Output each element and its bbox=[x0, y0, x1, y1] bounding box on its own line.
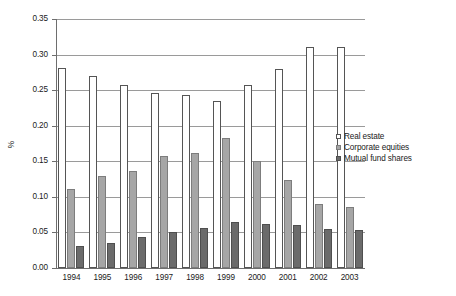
y-axis-tick-label: 0.10 bbox=[14, 192, 48, 201]
bar bbox=[129, 171, 137, 268]
bar bbox=[222, 138, 230, 268]
bar-group bbox=[120, 19, 146, 268]
bar bbox=[160, 156, 168, 268]
bar bbox=[89, 76, 97, 268]
legend-swatch-icon bbox=[336, 134, 341, 139]
bar-group bbox=[213, 19, 239, 268]
chart-legend: Real estateCorporate equitiesMutual fund… bbox=[336, 131, 412, 164]
bar bbox=[58, 68, 66, 268]
bar bbox=[182, 95, 190, 268]
y-axis-tick-label: 0.30 bbox=[14, 50, 48, 59]
y-axis-title: % bbox=[7, 141, 16, 148]
x-axis-tick-label: 2002 bbox=[303, 273, 334, 282]
bars-layer bbox=[56, 19, 365, 268]
bar bbox=[200, 228, 208, 268]
bar bbox=[191, 153, 199, 268]
x-axis-tick-label: 2003 bbox=[334, 273, 365, 282]
y-axis-tick-label: 0.20 bbox=[14, 121, 48, 130]
bar bbox=[231, 222, 239, 268]
legend-label: Mutual fund shares bbox=[344, 154, 412, 163]
bar-group bbox=[58, 19, 84, 268]
bar bbox=[315, 204, 323, 268]
bar-group bbox=[275, 19, 301, 268]
y-axis-tick-label: 0.25 bbox=[14, 85, 48, 94]
bar bbox=[67, 189, 75, 268]
legend-swatch-icon bbox=[336, 156, 341, 161]
bar bbox=[284, 180, 292, 268]
legend-item: Corporate equities bbox=[336, 142, 412, 153]
x-axis-tick-label: 2001 bbox=[272, 273, 303, 282]
bar bbox=[275, 69, 283, 268]
x-axis-tick-label: 1999 bbox=[211, 273, 242, 282]
x-axis-tick-label: 1996 bbox=[118, 273, 149, 282]
bar-group bbox=[306, 19, 332, 268]
bar bbox=[213, 101, 221, 268]
y-axis-tick-label: 0.05 bbox=[14, 227, 48, 236]
bar bbox=[262, 224, 270, 268]
bar bbox=[138, 237, 146, 268]
bar bbox=[253, 161, 261, 268]
x-axis-tick-label: 1995 bbox=[87, 273, 118, 282]
x-axis-tick-label: 1994 bbox=[56, 273, 87, 282]
bar bbox=[324, 229, 332, 268]
bar-chart: % 0.000.050.100.150.200.250.300.35 19941… bbox=[0, 0, 456, 296]
legend-label: Real estate bbox=[344, 132, 384, 141]
legend-label: Corporate equities bbox=[344, 143, 409, 152]
bar bbox=[355, 230, 363, 268]
legend-swatch-icon bbox=[336, 145, 341, 150]
y-axis-tick-label: 0.35 bbox=[14, 14, 48, 23]
bar-group bbox=[182, 19, 208, 268]
bar bbox=[346, 207, 354, 268]
bar bbox=[293, 225, 301, 268]
bar bbox=[76, 246, 84, 268]
bar bbox=[98, 176, 106, 268]
bar-group bbox=[89, 19, 115, 268]
gridline bbox=[56, 268, 365, 269]
y-axis-tick-label: 0.15 bbox=[14, 156, 48, 165]
y-axis-tick-label: 0.00 bbox=[14, 263, 48, 272]
x-axis-labels: 1994199519961997199819992000200120022003 bbox=[56, 273, 365, 289]
bar bbox=[244, 85, 252, 268]
legend-item: Mutual fund shares bbox=[336, 153, 412, 164]
bar bbox=[120, 85, 128, 268]
bar bbox=[169, 232, 177, 268]
bar-group bbox=[151, 19, 177, 268]
bar bbox=[107, 243, 115, 268]
x-axis-tick-label: 1997 bbox=[149, 273, 180, 282]
bar bbox=[151, 93, 159, 268]
legend-item: Real estate bbox=[336, 131, 412, 142]
bar-group bbox=[244, 19, 270, 268]
x-axis-tick-label: 2000 bbox=[241, 273, 272, 282]
x-axis-tick-label: 1998 bbox=[180, 273, 211, 282]
bar bbox=[306, 47, 314, 268]
